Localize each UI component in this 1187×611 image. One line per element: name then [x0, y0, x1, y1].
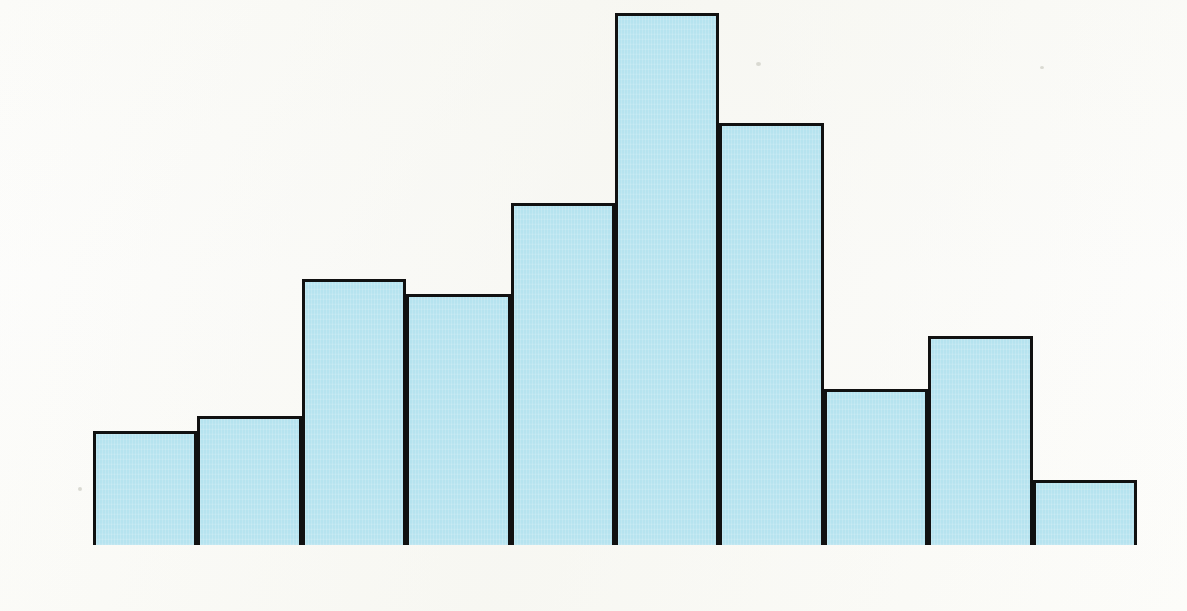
bar-texture [618, 16, 716, 545]
y-axis-tick [78, 544, 92, 547]
bar-texture [514, 206, 612, 545]
chart-title: Taviston School [864, 11, 1090, 45]
bar-texture [722, 126, 820, 545]
histogram-bar [197, 416, 301, 545]
histogram-bar [824, 389, 928, 545]
y-axis-tick-label: 20 [8, 374, 68, 408]
plot-area: Taviston School [93, 13, 1137, 545]
y-axis-tick [78, 316, 92, 319]
y-axis-tick [78, 88, 92, 91]
histogram-bar [719, 123, 823, 545]
y-axis-tick-label: 70 [8, 0, 68, 28]
histogram-bar [1033, 480, 1137, 545]
y-axis-tick [78, 164, 92, 167]
histogram-bar [93, 431, 197, 545]
y-axis-tick-label: 50 [8, 146, 68, 180]
x-axis-line [90, 545, 1185, 547]
histogram-bar [928, 336, 1032, 545]
histogram-bar [302, 279, 406, 545]
histogram-bar [615, 13, 719, 545]
scan-speck [78, 487, 82, 491]
y-axis-tick [78, 12, 92, 15]
histogram-bar [511, 203, 615, 545]
bar-texture [305, 282, 403, 545]
y-axis-tick-label: 0 [8, 526, 68, 560]
histogram-chart: Number of pupils 010203040506070 Tavisto… [0, 0, 1187, 611]
bar-texture [931, 339, 1029, 545]
y-axis-tick-label: 30 [8, 298, 68, 332]
y-axis-tick-label: 60 [8, 70, 68, 104]
bar-texture [827, 392, 925, 545]
y-axis-tick [78, 392, 92, 395]
y-axis-tick [78, 468, 92, 471]
y-axis-tick-label: 40 [8, 222, 68, 256]
bar-texture [1036, 483, 1134, 545]
y-axis-tick [78, 240, 92, 243]
y-axis-tick-label: 10 [8, 450, 68, 484]
bar-texture [200, 419, 298, 545]
x-axis-title: Score (%) [0, 578, 1187, 611]
bar-texture [409, 297, 507, 545]
bar-texture [96, 434, 194, 545]
histogram-bar [406, 294, 510, 545]
